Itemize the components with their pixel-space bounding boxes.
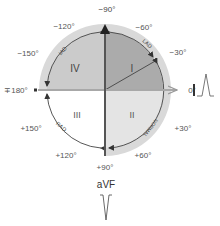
quadrant-label-iii: III bbox=[73, 110, 81, 120]
axis-diagram: IV I III II IAD LAD NORMAL RAD −90° −60°… bbox=[0, 0, 220, 226]
lead-avf-label: aVF bbox=[97, 179, 115, 190]
angle-label-plus-30: +30° bbox=[175, 124, 192, 133]
angle-label-plus-minus-180: ∓180° bbox=[4, 86, 28, 95]
quadrant-label-ii: II bbox=[129, 110, 134, 120]
angle-label-minus-90: −90° bbox=[99, 5, 116, 14]
quadrant-label-iv: IV bbox=[70, 63, 80, 74]
angle-label-minus-150: −150° bbox=[17, 49, 38, 58]
angle-label-plus-60: +60° bbox=[135, 151, 152, 160]
angle-label-plus-120: +120° bbox=[55, 151, 76, 160]
negative-qrs-icon bbox=[100, 195, 112, 220]
angle-label-minus-120: −120° bbox=[53, 22, 74, 31]
angle-label-minus-60: −60° bbox=[136, 23, 153, 32]
angle-label-minus-30: −30° bbox=[170, 48, 187, 57]
quadrant-iv-fill bbox=[47, 32, 105, 90]
quadrant-i-fill bbox=[105, 32, 163, 90]
angle-label-plus-150: +150° bbox=[20, 124, 41, 133]
quadrant-label-i: I bbox=[131, 63, 134, 74]
lead-i-waveform bbox=[193, 74, 214, 96]
horizontal-axis-end-tick bbox=[34, 89, 37, 92]
axis-diagram-svg: IV I III II IAD LAD NORMAL RAD −90° −60°… bbox=[0, 0, 220, 226]
positive-qrs-icon bbox=[197, 74, 214, 96]
lead-i-marker-icon bbox=[193, 84, 195, 96]
angle-label-plus-90: +90° bbox=[97, 163, 114, 172]
